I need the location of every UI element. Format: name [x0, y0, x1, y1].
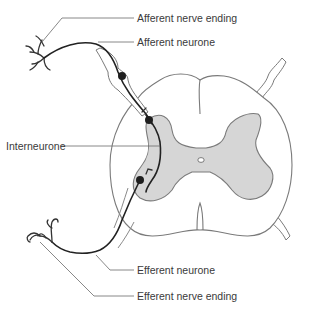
afferent-cell-body [118, 72, 126, 80]
central-canal [198, 158, 204, 163]
leader-efferent-nerve-ending [40, 242, 134, 296]
efferent-cell-body [136, 176, 144, 184]
leader-efferent-neurone [96, 255, 134, 270]
label-interneurone: Interneurone [6, 140, 66, 152]
reflex-arc-diagram: Afferent nerve ending Afferent neurone I… [0, 0, 311, 315]
label-afferent-neurone: Afferent neurone [137, 36, 215, 48]
afferent-nerve-ending [26, 36, 50, 70]
label-afferent-nerve-ending: Afferent nerve ending [137, 12, 237, 24]
label-efferent-nerve-ending: Efferent nerve ending [137, 290, 237, 302]
dorsal-root-right [256, 58, 286, 98]
interneurone-cell-body [145, 116, 153, 124]
leader-afferent-nerve-ending [42, 18, 134, 42]
efferent-nerve-ending [27, 219, 58, 242]
label-efferent-neurone: Efferent neurone [137, 264, 215, 276]
